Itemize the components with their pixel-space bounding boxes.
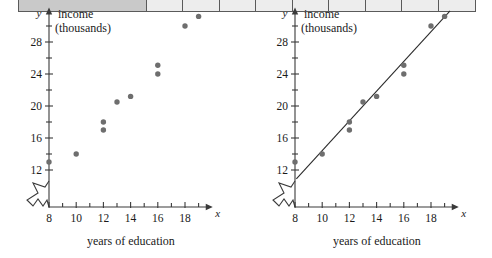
data-point: [128, 94, 133, 99]
scatterplot-without-trendline: 121620242881012141618xyincome(thousands)…: [0, 0, 246, 258]
data-point: [347, 127, 352, 132]
chart-right-content: 121620242881012141618xyincome(thousands)…: [273, 7, 466, 248]
y-axis-tick-label: 28: [31, 36, 43, 48]
data-point: [347, 119, 352, 124]
data-point: [114, 99, 119, 104]
data-point: [374, 94, 379, 99]
x-axis-arrowhead: [452, 204, 459, 210]
x-axis-tick-label: 12: [344, 212, 356, 224]
data-point: [155, 71, 160, 76]
x-axis-tick-label: 18: [425, 212, 437, 224]
x-axis-arrowhead: [206, 204, 213, 210]
x-axis-title: years of education: [333, 234, 421, 248]
y-axis-arrowhead: [46, 8, 52, 15]
data-point: [74, 151, 79, 156]
data-point: [401, 71, 406, 76]
chart-left-svg: 121620242881012141618xyincome(thousands)…: [0, 0, 246, 258]
y-axis-tick-label: 28: [277, 36, 289, 48]
chart-left-content: 121620242881012141618xyincome(thousands)…: [27, 7, 220, 248]
y-axis-tick-label: 12: [31, 164, 43, 176]
y-axis-tick-label: 24: [31, 68, 43, 80]
x-axis-tick-label: 16: [398, 212, 410, 224]
x-axis-tick-label: 18: [179, 212, 191, 224]
y-axis-tick-label: 24: [277, 68, 289, 80]
x-axis-tick-label: 16: [152, 212, 164, 224]
chart-right-svg: 121620242881012141618xyincome(thousands)…: [246, 0, 492, 258]
x-axis-tick-label: 14: [125, 212, 137, 224]
y-axis-tick-label: 16: [31, 132, 43, 144]
data-point: [101, 127, 106, 132]
data-point: [360, 99, 365, 104]
y-axis-title: income: [304, 7, 339, 21]
data-point: [155, 62, 160, 67]
y-axis-tick-label: 16: [277, 132, 289, 144]
y-axis-title-unit: (thousands): [55, 21, 111, 35]
x-axis-symbol: x: [214, 207, 220, 219]
data-point: [101, 119, 106, 124]
data-point: [182, 23, 187, 28]
data-point: [196, 14, 201, 19]
data-point: [46, 159, 51, 164]
data-point: [401, 62, 406, 67]
data-point: [292, 159, 297, 164]
y-axis-title: income: [58, 7, 93, 21]
axis-break-symbol: [273, 181, 295, 207]
data-point: [442, 14, 447, 19]
x-axis-tick-label: 8: [292, 212, 298, 224]
data-point: [320, 151, 325, 156]
x-axis-tick-label: 12: [98, 212, 110, 224]
y-axis-title-unit: (thousands): [301, 21, 357, 35]
x-axis-tick-label: 10: [316, 212, 328, 224]
y-axis-symbol: y: [282, 7, 288, 19]
y-axis-arrowhead: [292, 8, 298, 15]
x-axis-title: years of education: [87, 234, 175, 248]
y-axis-symbol: y: [36, 7, 42, 19]
y-axis-tick-label: 12: [277, 164, 289, 176]
x-axis-tick-label: 10: [70, 212, 82, 224]
x-axis-tick-label: 8: [46, 212, 52, 224]
data-point: [428, 23, 433, 28]
regression-line: [296, 11, 450, 179]
x-axis-tick-label: 14: [371, 212, 383, 224]
x-axis-symbol: x: [460, 207, 466, 219]
y-axis-tick-label: 20: [277, 100, 289, 112]
axis-break-symbol: [27, 181, 49, 207]
y-axis-tick-label: 20: [31, 100, 43, 112]
scatterplot-with-trendline: 121620242881012141618xyincome(thousands)…: [246, 0, 492, 258]
